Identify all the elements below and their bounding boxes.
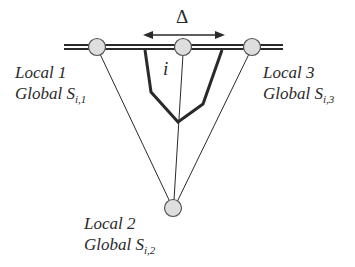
node-local-1 [89,39,106,56]
diagram-canvas [0,0,355,267]
node-local-2 [165,200,182,217]
delta-arrow [143,31,225,39]
local-3-text: Local 3 [263,62,334,83]
delta-label: Δ [176,6,188,28]
node-local-3 [244,39,261,56]
global-1-text: Global Si,1 [15,83,86,110]
local-2-text: Local 2 [84,213,155,234]
local-1-text: Local 1 [15,62,86,83]
label-local-1: Local 1 Global Si,1 [15,62,86,110]
link-lines [100,54,249,202]
index-label: i [163,58,168,80]
global-3-text: Global Si,3 [263,83,334,110]
label-local-3: Local 3 Global Si,3 [263,62,334,110]
label-local-2: Local 2 Global Si,2 [84,213,155,261]
global-2-text: Global Si,2 [84,234,155,261]
bold-profile-line [145,50,222,122]
node-center [175,39,192,56]
